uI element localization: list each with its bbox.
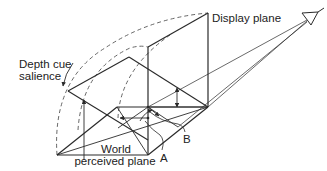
depth-cue-diagram	[0, 0, 327, 171]
display-plane-label: Display plane	[212, 12, 281, 24]
world-label-line1: World	[96, 143, 136, 155]
depth-cue-label-line2: salience	[19, 70, 61, 82]
mid-arc	[118, 35, 170, 118]
world-label-line2: perceived plane	[70, 155, 160, 167]
display-plane	[148, 13, 208, 125]
inner-arc	[78, 46, 148, 130]
leader-lines	[145, 112, 185, 150]
tilted-plane	[68, 57, 208, 140]
point-b-label: B	[183, 133, 191, 145]
point-a-label: A	[160, 152, 168, 164]
sight-lines	[148, 20, 307, 127]
depth-cue-label-line1: Depth cue	[19, 58, 71, 70]
